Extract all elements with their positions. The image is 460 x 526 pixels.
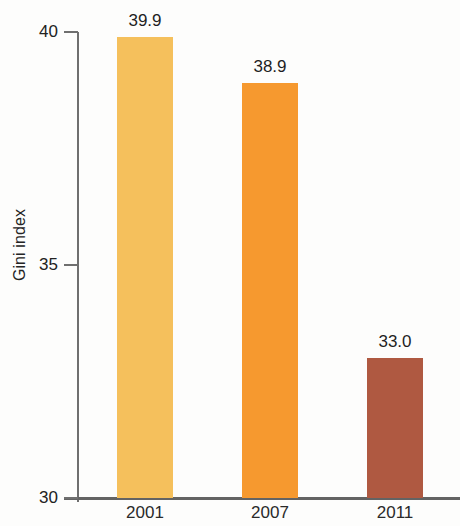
bar-value-label: 38.9: [220, 57, 320, 77]
bar[interactable]: [367, 358, 423, 498]
bar-value-label: 39.9: [95, 11, 195, 31]
plot-area: 39.938.933.0: [0, 0, 460, 526]
x-axis-tick-label: 2007: [220, 503, 320, 523]
gini-index-bar-chart: Gini index 403530 39.938.933.0 200120072…: [0, 0, 460, 526]
bar-value-label: 33.0: [345, 332, 445, 352]
bar[interactable]: [242, 83, 298, 498]
x-axis-tick-label: 2001: [95, 503, 195, 523]
bar[interactable]: [117, 37, 173, 498]
x-axis-tick-label: 2011: [345, 503, 445, 523]
